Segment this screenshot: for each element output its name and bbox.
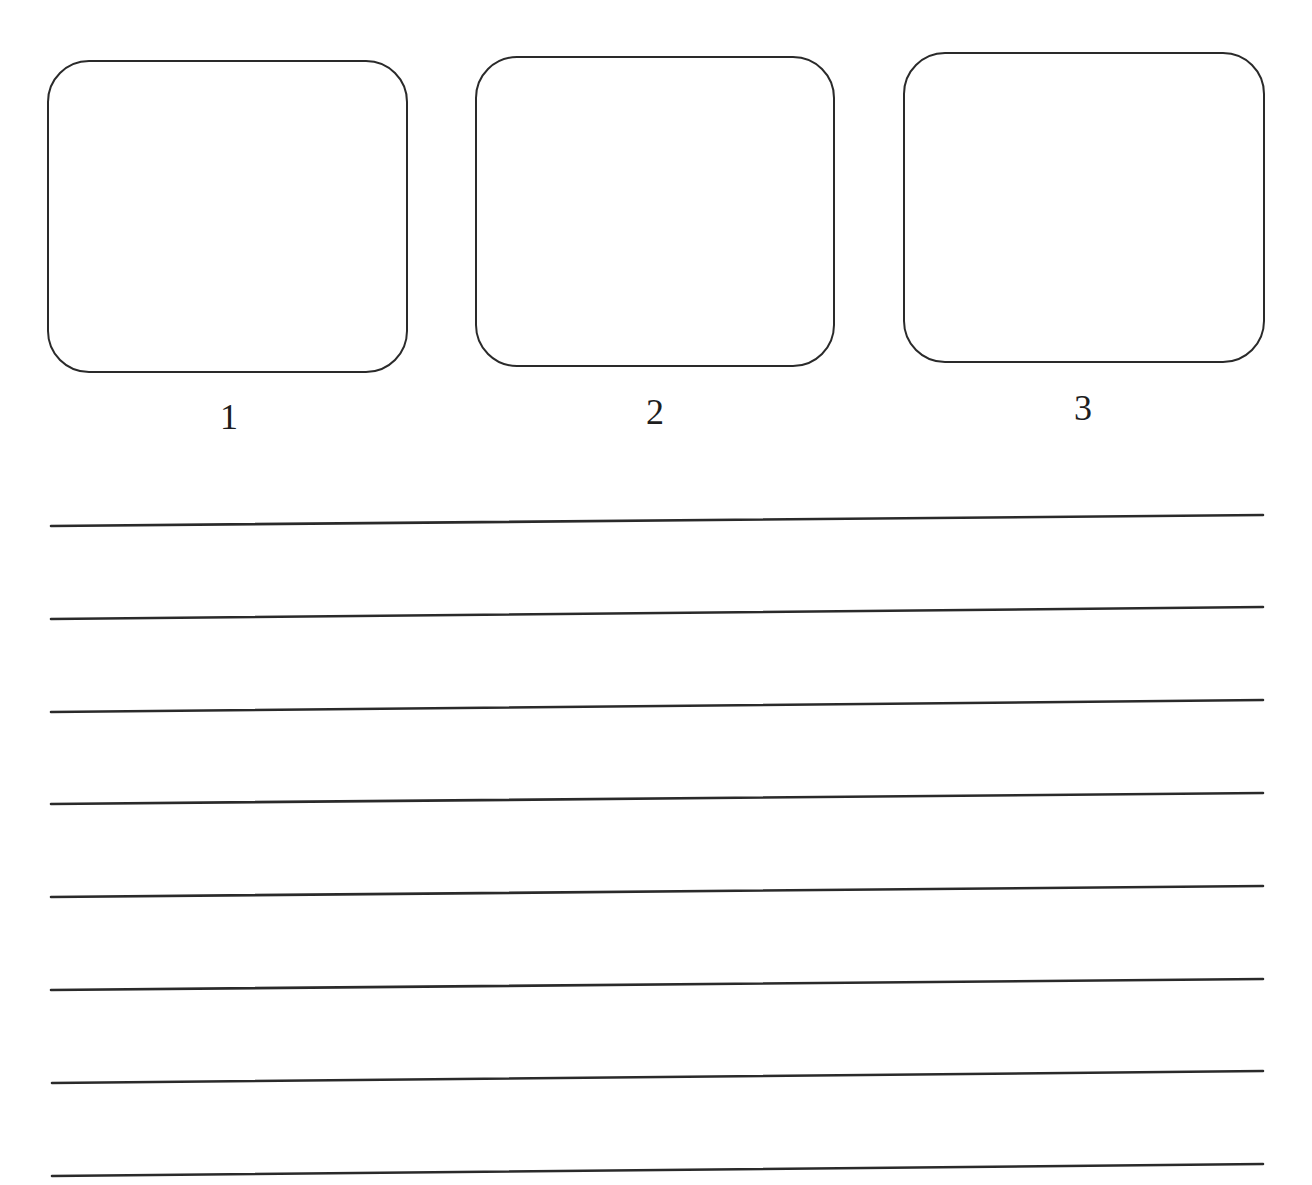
writing-line-area-2[interactable] <box>51 602 1263 624</box>
worksheet-page: 1 2 3 <box>0 0 1312 1185</box>
writing-line-area-5[interactable] <box>51 881 1263 903</box>
writing-line-area-8[interactable] <box>51 1159 1263 1181</box>
drawing-box-1-label: 1 <box>189 399 269 435</box>
writing-line-area-6[interactable] <box>51 974 1263 996</box>
writing-line-area-4[interactable] <box>51 788 1263 810</box>
writing-line-area-3[interactable] <box>51 695 1263 717</box>
drawing-box-1[interactable] <box>47 60 408 373</box>
drawing-box-3-label: 3 <box>1043 390 1123 426</box>
drawing-box-2-label: 2 <box>615 394 695 430</box>
drawing-box-2[interactable] <box>475 56 835 367</box>
writing-line-area-7[interactable] <box>51 1066 1263 1088</box>
drawing-box-3[interactable] <box>903 52 1265 363</box>
writing-line-area-1[interactable] <box>51 510 1263 532</box>
